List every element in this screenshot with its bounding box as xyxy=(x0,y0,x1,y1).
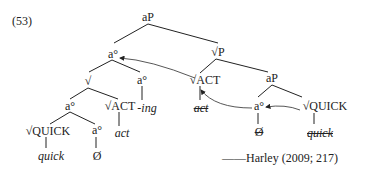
node-zero-left: Ø xyxy=(93,150,102,162)
node-sqrt-act-left: √ACT xyxy=(105,100,136,112)
node-quick-left: quick xyxy=(38,150,64,162)
node-quick-right: quick xyxy=(307,127,333,139)
node-act-left: act xyxy=(115,127,130,139)
node-sqrt-act-right: √ACT xyxy=(190,74,221,86)
node-sqrt-quick-right: √QUICK xyxy=(303,100,348,112)
node-a-ing: a° xyxy=(137,74,147,86)
node-zero-right: Ø xyxy=(255,126,264,138)
node-a-inner: a° xyxy=(65,100,75,112)
node-act-right: act xyxy=(194,102,209,114)
node-aP-root: aP xyxy=(142,11,154,23)
citation: ——Harley (2009; 217) xyxy=(222,151,338,166)
node-sqrt: √ xyxy=(85,75,92,87)
node-ing: -ing xyxy=(137,102,156,114)
node-a-right: a° xyxy=(254,100,264,112)
node-a-left: a° xyxy=(108,48,118,60)
node-a-zero-left: a° xyxy=(92,124,102,136)
node-sqrtP: √P xyxy=(211,46,224,58)
node-aP-right: aP xyxy=(266,72,278,84)
node-sqrt-quick-left: √QUICK xyxy=(26,125,71,137)
example-number: (53) xyxy=(12,14,32,29)
